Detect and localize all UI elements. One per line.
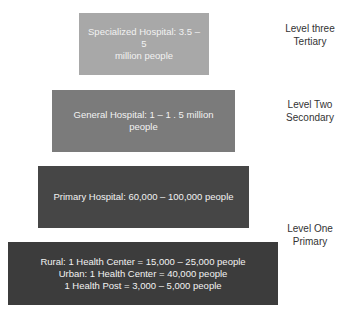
tier-text-line: 1 Health Post = 3,000 – 5,000 people (64, 280, 221, 292)
level-name: Level three (272, 22, 348, 35)
level-type: Secondary (272, 111, 348, 124)
level-label-tertiary: Level three Tertiary (272, 22, 348, 48)
tier-text-line: Specialized Hospital: 3.5 – 5 (85, 26, 203, 50)
tier-text-line: Urban: 1 Health Center = 40,000 people (59, 268, 228, 280)
level-name: Level One (272, 222, 348, 235)
level-type: Primary (272, 235, 348, 248)
level-name: Level Two (272, 98, 348, 111)
tier-text-line: Primary Hospital: 60,000 – 100,000 peopl… (53, 191, 233, 203)
tier-specialized-hospital: Specialized Hospital: 3.5 – 5 million pe… (79, 13, 209, 75)
tier-text-line: Rural: 1 Health Center = 15,000 – 25,000… (40, 256, 245, 268)
tier-text-line: million people (115, 50, 173, 62)
level-label-secondary: Level Two Secondary (272, 98, 348, 124)
level-type: Tertiary (272, 35, 348, 48)
tier-text-line: General Hospital: 1 – 1 . 5 million peop… (58, 109, 229, 133)
level-label-primary: Level One Primary (272, 222, 348, 248)
tier-health-center: Rural: 1 Health Center = 15,000 – 25,000… (8, 242, 278, 305)
tier-general-hospital: General Hospital: 1 – 1 . 5 million peop… (52, 90, 235, 152)
tier-primary-hospital: Primary Hospital: 60,000 – 100,000 peopl… (38, 166, 249, 228)
